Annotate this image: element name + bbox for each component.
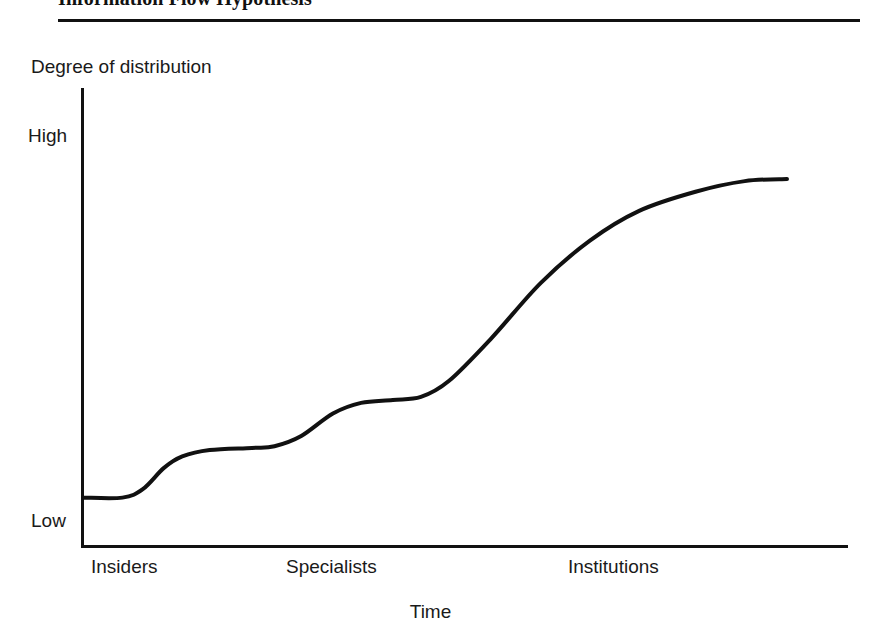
data-curve-degree-of-distribution <box>83 179 787 498</box>
x-axis-title: Time <box>410 601 452 622</box>
x-axis-title-wrap: Time <box>0 601 879 623</box>
plot-area <box>0 0 879 637</box>
x-tick-label-specialists: Specialists <box>286 556 377 578</box>
x-tick-label-insiders: Insiders <box>91 556 158 578</box>
x-tick-label-institutions: Institutions <box>568 556 659 578</box>
figure-information-flow-hypothesis: Information Flow Hypothesis Degree of di… <box>0 0 879 637</box>
